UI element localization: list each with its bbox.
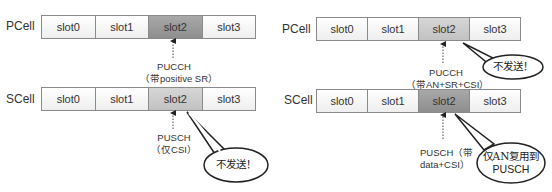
right-scell-callout-text: 仅AN复用到 PUSCH (478, 150, 544, 176)
left-callout-text: 不发送！ (206, 158, 266, 171)
right-scell-callout-line1: 仅AN复用到 (478, 150, 544, 163)
right-pcell-callout-text: 不发送！ (485, 60, 541, 73)
left-callout-bubble-icon (187, 112, 268, 182)
right-scell-callout-line2: PUSCH (478, 163, 544, 176)
arrows-and-callouts (0, 0, 552, 192)
